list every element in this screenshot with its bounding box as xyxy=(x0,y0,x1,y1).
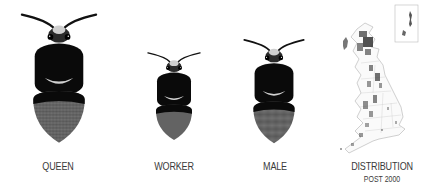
queen-bee-icon xyxy=(19,6,99,150)
worker-label: WORKER xyxy=(149,160,198,172)
male-figure xyxy=(242,33,306,149)
distribution-map xyxy=(335,3,425,158)
male-label: MALE xyxy=(250,160,299,172)
male-bee-icon xyxy=(242,33,306,149)
uk-map-icon xyxy=(335,3,425,158)
queen-label: QUEEN xyxy=(33,160,82,172)
distribution-sublabel: POST 2000 xyxy=(357,174,406,184)
queen-figure xyxy=(19,6,99,150)
distribution-label: DISTRIBUTION xyxy=(349,160,415,172)
worker-bee-icon xyxy=(146,47,202,145)
worker-figure xyxy=(146,47,202,145)
